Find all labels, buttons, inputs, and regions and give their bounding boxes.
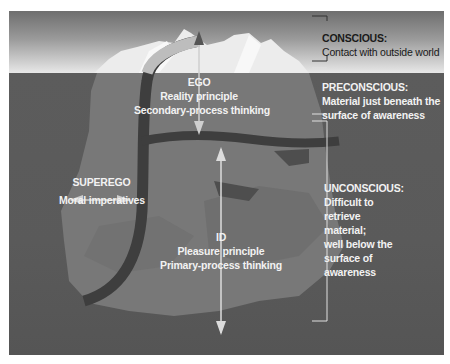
conscious-desc: Contact with outside world xyxy=(322,45,439,59)
ego-title: EGO xyxy=(134,75,264,89)
preconscious-title: PRECONSCIOUS: xyxy=(322,80,440,94)
id-label: ID Pleasure principle Primary-process th… xyxy=(156,230,286,272)
unconscious-title: UNCONSCIOUS: xyxy=(324,181,404,195)
superego-title: SUPEREGO xyxy=(59,175,144,189)
ego-label: EGO Reality principle Secondary-process … xyxy=(134,75,264,117)
iceberg-tip xyxy=(94,29,309,73)
conscious-label: CONSCIOUS: Contact with outside world xyxy=(322,31,439,59)
conscious-title: CONSCIOUS: xyxy=(322,31,439,45)
iceberg-diagram: CONSCIOUS: Contact with outside world PR… xyxy=(9,11,444,355)
id-title: ID xyxy=(156,230,286,244)
superego-label: SUPEREGO Moral imperatives xyxy=(59,175,144,207)
unconscious-label: UNCONSCIOUS: Difficult to retrieve mater… xyxy=(324,181,404,279)
preconscious-label: PRECONSCIOUS: Material just beneath the … xyxy=(322,80,440,122)
